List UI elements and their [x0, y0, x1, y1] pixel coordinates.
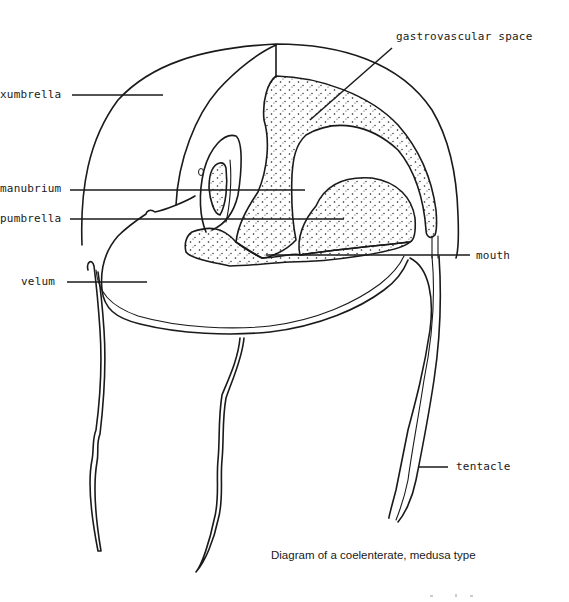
right-tentacle-outer	[389, 258, 432, 518]
scan-artifacts	[430, 594, 473, 597]
label-exumbrella: xumbrella	[0, 88, 61, 101]
velum-inner-line	[96, 256, 404, 328]
diagram-caption: Diagram of a coelenterate, medusa type	[271, 549, 476, 561]
medusa-drawing	[0, 0, 569, 602]
medusa-diagram: xumbrella gastrovascular space manubrium…	[0, 0, 569, 602]
label-gastrovascular-space: gastrovascular space	[396, 30, 532, 43]
manubrium-lens	[209, 163, 227, 215]
right-tentacle-inner	[396, 256, 434, 520]
label-tentacle: tentacle	[456, 460, 511, 473]
left-tentacle	[88, 262, 105, 551]
label-manubrium: manubrium	[0, 182, 61, 195]
center-tentacle	[196, 338, 244, 572]
label-subumbrella: pumbrella	[0, 212, 61, 225]
label-velum: velum	[21, 275, 55, 288]
label-mouth: mouth	[476, 249, 510, 262]
